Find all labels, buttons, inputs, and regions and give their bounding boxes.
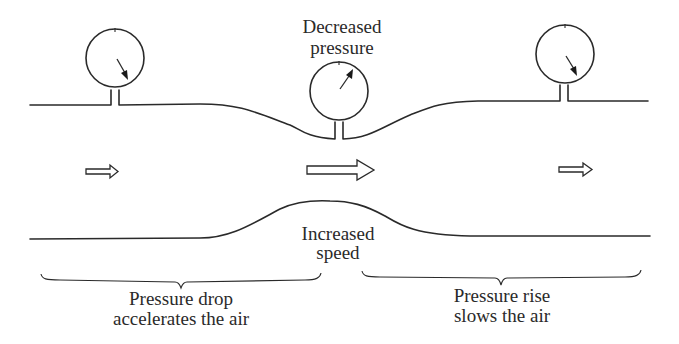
pressure-gauge-center (310, 61, 368, 120)
venturi-diagram: Decreased pressure Increased speed Press… (0, 0, 679, 344)
gauge-dial-center (310, 62, 368, 120)
label-pressure-drop-line2: accelerates the air (113, 308, 250, 329)
label-increased-speed-line1: Increased (302, 223, 375, 244)
label-pressure-drop-line1: Pressure drop (129, 288, 233, 309)
brace-right (362, 270, 641, 285)
flow-arrow-right-icon (559, 163, 592, 176)
label-decreased-pressure-line2: pressure (310, 37, 373, 58)
brace-left (41, 273, 321, 288)
label-increased-speed-line2: speed (316, 242, 360, 263)
gauge-dial-right (536, 25, 594, 83)
gauge-dial-left (86, 29, 144, 87)
flow-arrow-left-icon (86, 165, 118, 178)
label-decreased-pressure-line1: Decreased (302, 16, 382, 37)
label-pressure-rise-line1: Pressure rise (454, 285, 551, 306)
pressure-gauge-left (86, 28, 144, 87)
pressure-gauge-right (536, 24, 594, 83)
flow-arrow-center-icon (307, 160, 374, 180)
label-pressure-rise-line2: slows the air (454, 305, 551, 326)
